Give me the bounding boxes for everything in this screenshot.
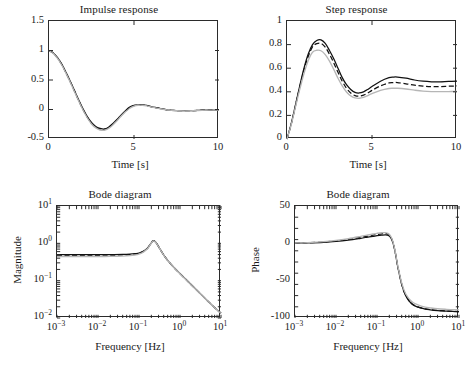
bode-mag-xtick-1e1: 101 — [204, 321, 236, 332]
bode-phase-xlabel: Frequency [Hz] — [258, 340, 475, 352]
bode-phase-xtick-1e-2: 10−2 — [319, 321, 351, 332]
step-ytick-0.4: 0.4 — [248, 84, 282, 95]
bode-phase-xtick-1e-3: 10−3 — [278, 321, 310, 332]
impulse-ytick-1: 1 — [8, 43, 44, 54]
curve-gray — [49, 51, 219, 131]
bode-mag-ylabel: Magnitude — [11, 220, 23, 300]
step-curves — [287, 21, 457, 139]
step-xtick-10: 10 — [444, 141, 468, 152]
step-plot-area — [286, 20, 456, 138]
bode-mag-xtick-1e-1: 10−1 — [122, 321, 154, 332]
bode-phase-ytick--100: -100 — [248, 310, 290, 321]
curve-solid — [57, 241, 221, 314]
curve-gray — [287, 50, 457, 139]
step-ytick-0.6: 0.6 — [248, 61, 282, 72]
bode-phase-curves — [295, 206, 459, 318]
impulse-xtick-5: 5 — [123, 141, 143, 152]
bode-mag-xlabel: Frequency [Hz] — [20, 340, 240, 352]
bode-phase-xtick-1e-1: 10−1 — [360, 321, 392, 332]
bode-phase-plot-area — [294, 205, 458, 317]
bode-phase-xtick-1e0: 100 — [401, 321, 433, 332]
curve-dashed — [49, 51, 219, 130]
impulse-plot-area — [48, 20, 218, 138]
curve-dashed — [295, 234, 459, 312]
figure-container: Impulse response 1.5 1 0.5 0 -0.5 0 5 10… — [0, 0, 475, 375]
curve-gray — [57, 241, 221, 314]
bode-mag-ytick-1e1: 101 — [12, 199, 52, 210]
curve-solid — [287, 40, 457, 139]
impulse-ytick-0.5: 0.5 — [8, 73, 44, 84]
panel-bode-magnitude: Bode diagram 101 100 10−1 10−2 Magnitude… — [0, 188, 238, 375]
bode-mag-plot-area — [56, 205, 220, 317]
panel-bode-phase: Bode diagram 50 0 -50 -100 Phase 10−3 10… — [238, 188, 475, 375]
bode-phase-ytick-50: 50 — [252, 199, 290, 210]
impulse-curves — [49, 21, 219, 139]
impulse-xtick-10: 10 — [206, 141, 230, 152]
step-ytick-0.8: 0.8 — [248, 37, 282, 48]
step-xtick-0: 0 — [276, 141, 296, 152]
impulse-xlabel: Time [s] — [20, 158, 240, 170]
bode-mag-xtick-1e-3: 10−3 — [40, 321, 72, 332]
bode-mag-xtick-1e-2: 10−2 — [81, 321, 113, 332]
curve-gray — [295, 233, 459, 310]
bode-phase-xtick-1e1: 101 — [442, 321, 474, 332]
step-ytick-0.2: 0.2 — [248, 108, 282, 119]
bode-mag-xtick-1e0: 100 — [163, 321, 195, 332]
impulse-ytick-0: 0 — [8, 102, 44, 113]
step-xtick-5: 5 — [361, 141, 381, 152]
curve-dashed — [57, 241, 221, 314]
bode-mag-ytick-1e-2: 10−2 — [12, 310, 52, 321]
curve-solid — [295, 235, 459, 312]
step-xlabel: Time [s] — [258, 158, 475, 170]
panel-step-response: Step response 1 0.8 0.6 0.4 0.2 0 0 5 10… — [238, 0, 475, 188]
bode-phase-ylabel: Phase — [249, 225, 261, 295]
step-ytick-1: 1 — [248, 14, 282, 25]
impulse-xtick-0: 0 — [38, 141, 58, 152]
panel-impulse-response: Impulse response 1.5 1 0.5 0 -0.5 0 5 10… — [0, 0, 238, 188]
impulse-ytick-1.5: 1.5 — [8, 14, 44, 25]
bode-mag-curves — [57, 206, 221, 318]
